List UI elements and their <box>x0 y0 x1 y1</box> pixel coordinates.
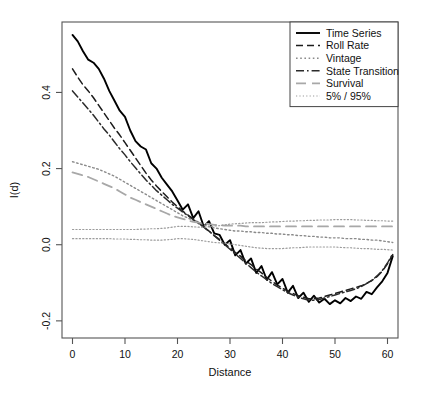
x-axis-title: Distance <box>209 366 252 378</box>
y-tick-label: 0.4 <box>40 85 52 100</box>
chart-legend: Time SeriesRoll RateVintageState Transit… <box>290 22 399 107</box>
chart-canvas: 0102030405060-0.20.00.20.4 Time SeriesRo… <box>0 0 435 395</box>
y-tick-label: -0.2 <box>40 312 52 330</box>
x-tick-label: 20 <box>172 348 184 360</box>
legend-label: Time Series <box>326 27 382 39</box>
x-tick-label: 60 <box>382 348 394 360</box>
x-tick-label: 10 <box>119 348 131 360</box>
x-tick-label: 0 <box>70 348 76 360</box>
y-tick-label: 0.0 <box>40 237 52 252</box>
x-tick-label: 30 <box>224 348 236 360</box>
legend-label: Survival <box>326 77 363 89</box>
series-line-vintage <box>73 162 393 243</box>
x-tick-label: 40 <box>277 348 289 360</box>
legend-label: State Transition <box>326 65 399 77</box>
y-tick-label: 0.2 <box>40 161 52 176</box>
legend-label: 5% / 95% <box>326 90 371 102</box>
y-axis-title: I(d) <box>8 182 20 199</box>
legend-label: Roll Rate <box>326 39 369 51</box>
series-line-state-transition <box>73 91 393 300</box>
chart-figure: 0102030405060-0.20.00.20.4 Time SeriesRo… <box>0 0 435 395</box>
x-tick-label: 50 <box>329 348 341 360</box>
legend-label: Vintage <box>326 52 362 64</box>
series-line-5-95 <box>73 220 393 230</box>
